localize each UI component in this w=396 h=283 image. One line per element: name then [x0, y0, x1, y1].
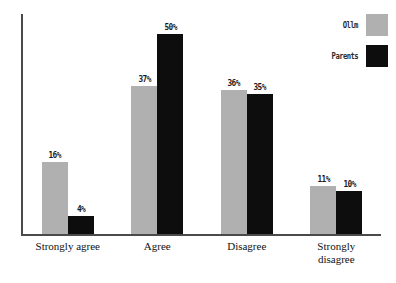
- bar-parents: [247, 94, 273, 234]
- bar-group-strongly-agree: 16% 4%: [23, 150, 113, 235]
- x-axis-line: [21, 234, 381, 236]
- legend-swatch-icon: [366, 45, 388, 67]
- x-label-agree: Agree: [113, 240, 203, 253]
- legend-swatch-icon: [366, 14, 388, 36]
- bar-group-strongly-disagree: 11% 10%: [292, 174, 382, 235]
- x-axis-category-labels: Strongly agree Agree Disagree Strongly d…: [23, 240, 381, 282]
- bar-ollm: [221, 90, 247, 234]
- bar-item: 16%: [42, 150, 68, 235]
- bar-group-disagree: 36% 35%: [202, 78, 292, 235]
- x-label-strongly-disagree: Strongly disagree: [292, 240, 382, 266]
- legend-label: Ollm: [343, 21, 358, 30]
- bar-item: 35%: [247, 82, 273, 235]
- bar-value-label: 10%: [343, 179, 356, 189]
- legend-entry-parents: Parents: [325, 45, 388, 67]
- bar-parents: [68, 216, 94, 234]
- bar-value-label: 37%: [138, 74, 151, 84]
- legend-label: Parents: [332, 52, 358, 61]
- x-label-strongly-agree: Strongly agree: [23, 240, 113, 253]
- bar-value-label: 11%: [317, 174, 330, 184]
- bar-ollm: [131, 86, 157, 234]
- bar-value-label: 16%: [48, 150, 61, 160]
- bar-ollm: [310, 186, 336, 234]
- bar-item: 50%: [157, 22, 183, 235]
- bar-item: 11%: [310, 174, 336, 235]
- bar-item: 4%: [68, 204, 94, 235]
- bar-item: 10%: [336, 179, 362, 235]
- x-label-disagree: Disagree: [202, 240, 292, 253]
- bar-group-agree: 37% 50%: [113, 22, 203, 235]
- bar-value-label: 35%: [253, 82, 266, 92]
- bar-item: 36%: [221, 78, 247, 235]
- bar-parents: [157, 34, 183, 234]
- bar-chart: 16% 4% 37% 50% 36%: [0, 0, 396, 283]
- bar-value-label: 50%: [164, 22, 177, 32]
- bar-value-label: 36%: [227, 78, 240, 88]
- bar-item: 37%: [131, 74, 157, 235]
- legend-entry-ollm: Ollm: [325, 14, 388, 36]
- bar-ollm: [42, 162, 68, 234]
- chart-legend: Ollm Parents: [325, 14, 388, 67]
- bar-value-label: 4%: [77, 204, 85, 214]
- bar-parents: [336, 191, 362, 234]
